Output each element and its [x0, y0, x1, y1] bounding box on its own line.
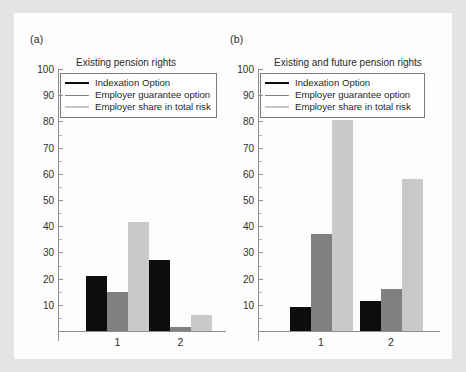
y-tick-minor: [59, 161, 62, 162]
y-tick-major: [59, 305, 63, 306]
y-tick-label: 30: [232, 247, 254, 258]
y-tick-major: [59, 95, 63, 96]
y-tick-label: 70: [32, 142, 54, 153]
x-axis-line: [58, 331, 226, 332]
y-tick-minor: [259, 239, 262, 240]
chart-panel-b: (b) Existing and future pension rights I…: [214, 13, 452, 359]
y-tick-label: 40: [232, 221, 254, 232]
bar-3-group-1: [128, 222, 149, 331]
y-tick-label: 40: [32, 221, 54, 232]
y-tick-minor: [59, 135, 62, 136]
chart-panel-a: (a) Existing pension rights Indexation O…: [14, 13, 234, 359]
y-tick-minor: [59, 213, 62, 214]
x-axis-line: [258, 331, 440, 332]
y-tick-major: [59, 121, 63, 122]
y-tick-label: 50: [232, 195, 254, 206]
y-tick-label: 60: [232, 168, 254, 179]
bar-1-group-1: [290, 307, 311, 331]
y-tick-label: 100: [232, 64, 254, 75]
y-tick-minor: [59, 82, 62, 83]
y-tick-major: [259, 95, 263, 96]
y-tick-major: [259, 121, 263, 122]
x-tick-label: 1: [318, 336, 324, 348]
bar-2-group-1: [107, 292, 128, 331]
y-tick-label: 20: [32, 273, 54, 284]
y-tick-minor: [259, 318, 262, 319]
y-tick-major: [59, 174, 63, 175]
bar-1-group-2: [360, 301, 381, 331]
y-tick-minor: [259, 135, 262, 136]
x-tick-label: 2: [388, 336, 394, 348]
bar-3-group-1: [332, 120, 353, 331]
y-tick-label: 70: [232, 142, 254, 153]
y-tick-major: [59, 69, 63, 70]
bar-3-group-2: [402, 179, 423, 331]
bar-3-group-2: [191, 315, 212, 331]
y-tick-label: 10: [232, 299, 254, 310]
y-tick-major: [59, 148, 63, 149]
y-tick-label: 90: [232, 90, 254, 101]
y-tick-major: [259, 252, 263, 253]
x-tick-label: 1: [115, 336, 121, 348]
y-tick-label: 90: [32, 90, 54, 101]
y-tick-major: [259, 305, 263, 306]
y-tick-minor: [259, 82, 262, 83]
y-tick-major: [59, 252, 63, 253]
bar-1-group-1: [86, 276, 107, 331]
y-tick-major: [259, 226, 263, 227]
y-tick-minor: [259, 187, 262, 188]
y-tick-minor: [259, 108, 262, 109]
y-tick-major: [259, 279, 263, 280]
y-tick-label: 80: [232, 116, 254, 127]
y-tick-label: 20: [232, 273, 254, 284]
bar-2-group-2: [381, 289, 402, 331]
y-tick-minor: [259, 213, 262, 214]
y-tick-label: 30: [32, 247, 54, 258]
y-tick-minor: [259, 266, 262, 267]
y-axis-line: [58, 69, 59, 341]
y-tick-label: 60: [32, 168, 54, 179]
y-tick-minor: [59, 187, 62, 188]
bar-2-group-2: [170, 327, 191, 331]
y-tick-minor: [59, 239, 62, 240]
bar-2-group-1: [311, 234, 332, 331]
bar-1-group-2: [149, 260, 170, 331]
y-tick-major: [259, 174, 263, 175]
y-tick-major: [59, 200, 63, 201]
y-tick-label: 80: [32, 116, 54, 127]
x-tick-label: 2: [178, 336, 184, 348]
figure-page: (a) Existing pension rights Indexation O…: [0, 0, 466, 372]
y-tick-minor: [59, 292, 62, 293]
y-axis-line: [258, 69, 259, 341]
y-tick-major: [59, 226, 63, 227]
y-tick-major: [259, 200, 263, 201]
y-tick-major: [259, 148, 263, 149]
y-tick-label: 100: [32, 64, 54, 75]
y-tick-major: [259, 69, 263, 70]
y-tick-label: 50: [32, 195, 54, 206]
y-tick-minor: [59, 318, 62, 319]
y-tick-label: 10: [32, 299, 54, 310]
y-tick-minor: [259, 292, 262, 293]
y-tick-minor: [59, 266, 62, 267]
y-tick-minor: [259, 161, 262, 162]
y-tick-minor: [59, 108, 62, 109]
y-tick-major: [59, 279, 63, 280]
figure-plate: (a) Existing pension rights Indexation O…: [14, 13, 452, 359]
